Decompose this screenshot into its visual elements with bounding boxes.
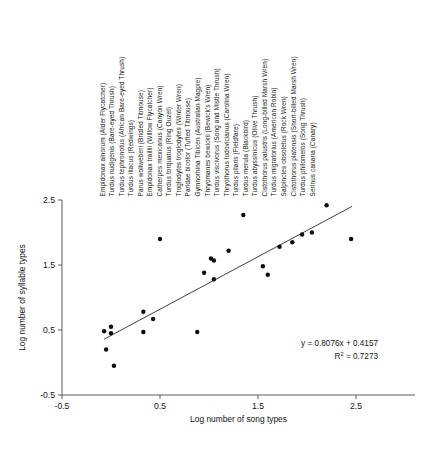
x-tick-label: 2.5 xyxy=(350,401,362,411)
data-point xyxy=(261,264,265,268)
data-point xyxy=(158,237,162,241)
data-point xyxy=(151,317,155,321)
y-tick-label: 0.5 xyxy=(43,325,55,335)
data-point xyxy=(212,277,216,281)
data-point xyxy=(277,245,281,249)
data-point xyxy=(104,347,108,351)
data-point xyxy=(202,271,206,275)
x-tick-label: 0.5 xyxy=(154,401,166,411)
data-point xyxy=(102,329,106,333)
data-point xyxy=(109,325,113,329)
data-point xyxy=(226,249,230,253)
y-tick-label: 2.5 xyxy=(43,195,55,205)
data-point xyxy=(310,230,314,234)
x-tick-label: 1.5 xyxy=(252,401,264,411)
data-point xyxy=(300,232,304,236)
data-point xyxy=(141,330,145,334)
plot-canvas: -0.50.51.52.5-0.50.51.52.5Log number of … xyxy=(0,0,424,463)
data-point xyxy=(212,258,216,262)
regression-line xyxy=(104,206,352,339)
data-point xyxy=(266,273,270,277)
axes-group xyxy=(58,200,415,399)
y-axis-title: Log number of syllable types xyxy=(17,244,27,351)
data-point xyxy=(349,237,353,241)
data-point xyxy=(195,330,199,334)
axis-labels-group: -0.50.51.52.5-0.50.51.52.5Log number of … xyxy=(17,195,362,424)
scatter-plot: -0.50.51.52.5-0.50.51.52.5Log number of … xyxy=(0,0,424,463)
regression-line-group xyxy=(104,206,352,339)
data-point xyxy=(141,310,145,314)
r-squared-text: R2 = 0.7273 xyxy=(335,351,379,361)
x-axis-title: Log number of song types xyxy=(190,414,287,424)
data-point xyxy=(324,203,328,207)
data-point xyxy=(241,213,245,217)
y-tick-label: 1.5 xyxy=(43,260,55,270)
data-point xyxy=(290,240,294,244)
regression-equation: y = 0.8076x + 0.4157 xyxy=(301,339,378,348)
data-point xyxy=(109,331,113,335)
data-point xyxy=(112,364,116,368)
x-tick-label: -0.5 xyxy=(55,401,70,411)
y-tick-label: -0.5 xyxy=(40,390,55,400)
annotation-group: y = 0.8076x + 0.4157R2 = 0.7273 xyxy=(301,339,378,361)
